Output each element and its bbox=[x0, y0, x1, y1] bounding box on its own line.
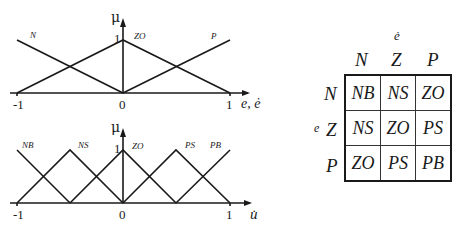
bottom-tick-neg: -1 bbox=[13, 207, 24, 223]
col-header-P: P bbox=[427, 49, 439, 71]
bottom-tick-pos: 1 bbox=[226, 207, 233, 223]
label-NB: NB bbox=[22, 140, 34, 150]
top-tick-pos: 1 bbox=[226, 97, 233, 113]
label-NS: NS bbox=[78, 140, 89, 150]
label-ZO-out: ZO bbox=[132, 141, 144, 151]
col-header-Z: Z bbox=[391, 49, 402, 71]
top-y-arrow-icon bbox=[120, 18, 126, 27]
table-row: NB NS ZO bbox=[345, 75, 451, 111]
rule-cell: ZO bbox=[345, 146, 381, 182]
rule-cell: PB bbox=[416, 146, 452, 182]
top-tick-zero: 0 bbox=[119, 97, 126, 113]
bottom-one-label: 1 bbox=[114, 141, 121, 157]
bottom-mu-label: μ bbox=[111, 119, 120, 135]
row-header-N: N bbox=[324, 83, 337, 105]
rule-cell: PS bbox=[416, 111, 452, 146]
top-tick-neg: -1 bbox=[13, 97, 24, 113]
table-row: NS ZO PS bbox=[345, 111, 451, 146]
rule-cell: NS bbox=[345, 111, 381, 146]
rule-cell: PS bbox=[381, 146, 416, 182]
bottom-tick-zero: 0 bbox=[119, 207, 126, 223]
row-axis-label: e bbox=[314, 121, 319, 136]
rule-cell: ZO bbox=[416, 75, 452, 111]
bottom-y-arrow-icon bbox=[120, 128, 126, 137]
rule-cell: NS bbox=[381, 75, 416, 111]
col-header-N: N bbox=[355, 49, 368, 71]
bottom-x-label: u̇ bbox=[250, 206, 258, 223]
row-header-Z: Z bbox=[326, 119, 337, 141]
label-P: P bbox=[211, 31, 217, 41]
rule-cell: NB bbox=[345, 75, 381, 111]
label-N: N bbox=[30, 30, 36, 40]
top-mu-label: μ bbox=[111, 9, 120, 25]
table-row: ZO PS PB bbox=[345, 146, 451, 182]
top-one-label: 1 bbox=[114, 31, 121, 47]
rule-cell: ZO bbox=[381, 111, 416, 146]
col-axis-label: ė bbox=[394, 28, 400, 44]
label-PB: PB bbox=[210, 140, 221, 150]
rule-table: NB NS ZO NS ZO PS ZO PS PB bbox=[344, 74, 452, 182]
row-header-P: P bbox=[326, 155, 338, 177]
label-PS: PS bbox=[185, 140, 195, 150]
label-ZO: ZO bbox=[134, 31, 146, 41]
mf-PS bbox=[123, 150, 230, 203]
top-x-label: e, ė bbox=[241, 96, 260, 112]
mf-NS bbox=[17, 150, 123, 203]
